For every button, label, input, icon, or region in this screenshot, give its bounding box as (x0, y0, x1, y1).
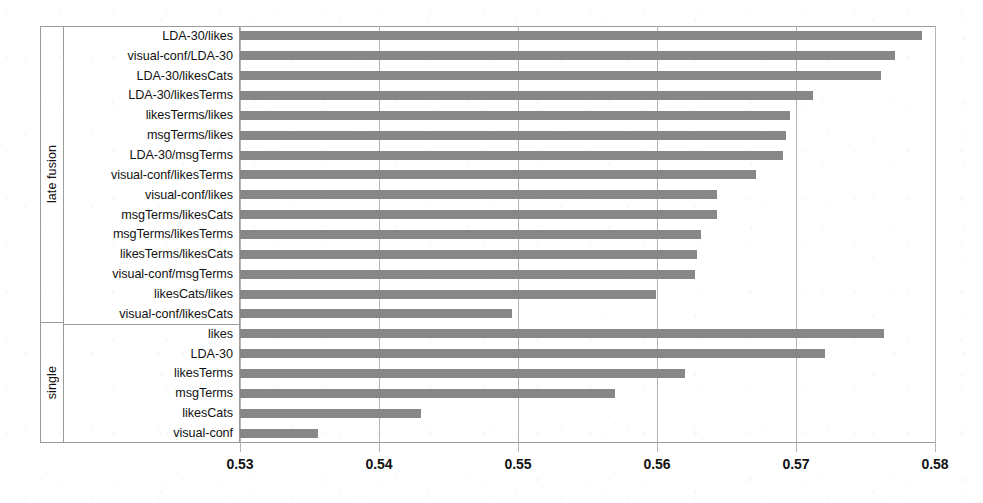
bar (240, 31, 922, 40)
bar (240, 210, 717, 219)
bar (240, 131, 786, 140)
bar-row (240, 46, 895, 66)
x-tick-0.55 (518, 443, 519, 452)
bar-row (240, 185, 717, 205)
x-axis: 0.530.540.550.560.570.58 (240, 443, 935, 483)
bar-row (240, 26, 922, 46)
bar-row (240, 364, 685, 384)
plot-area (240, 26, 935, 443)
bar-row (240, 383, 615, 403)
bar (240, 250, 697, 259)
x-tick-0.53 (240, 443, 241, 452)
x-tick-label-0.54: 0.54 (365, 456, 392, 472)
bar (240, 270, 695, 279)
x-tick-0.56 (657, 443, 658, 452)
bar-chart: late fusion single LDA-30/likesvisual-co… (0, 0, 983, 503)
bar (240, 170, 756, 179)
bar (240, 51, 895, 60)
bar-row (240, 145, 783, 165)
bar (240, 151, 783, 160)
bar-row (240, 423, 318, 443)
bar-row (240, 225, 701, 245)
bar-row (240, 403, 421, 423)
bar-row (240, 86, 813, 106)
bar (240, 71, 881, 80)
bar-row (240, 264, 695, 284)
bar (240, 329, 884, 338)
x-tick-label-0.58: 0.58 (921, 456, 948, 472)
bar (240, 409, 421, 418)
bar-row (240, 284, 656, 304)
bar-row (240, 324, 884, 344)
bar (240, 230, 701, 239)
x-tick-0.58 (935, 443, 936, 452)
x-tick-0.57 (796, 443, 797, 452)
bar (240, 369, 685, 378)
bar (240, 389, 615, 398)
gridline-0.58 (935, 26, 936, 443)
bar-row (240, 165, 756, 185)
x-tick-label-0.53: 0.53 (226, 456, 253, 472)
bar-row (240, 304, 512, 324)
x-tick-label-0.57: 0.57 (782, 456, 809, 472)
bar-row (240, 125, 786, 145)
bar (240, 190, 717, 199)
x-tick-label-0.56: 0.56 (643, 456, 670, 472)
x-tick-label-0.55: 0.55 (504, 456, 531, 472)
bar (240, 91, 813, 100)
bar-row (240, 66, 881, 86)
bar-row (240, 244, 697, 264)
bar (240, 349, 825, 358)
bar-row (240, 344, 825, 364)
bar (240, 290, 656, 299)
bar-row (240, 105, 790, 125)
bar (240, 111, 790, 120)
bar-row (240, 205, 717, 225)
bar (240, 309, 512, 318)
bar (240, 429, 318, 438)
x-tick-0.54 (379, 443, 380, 452)
